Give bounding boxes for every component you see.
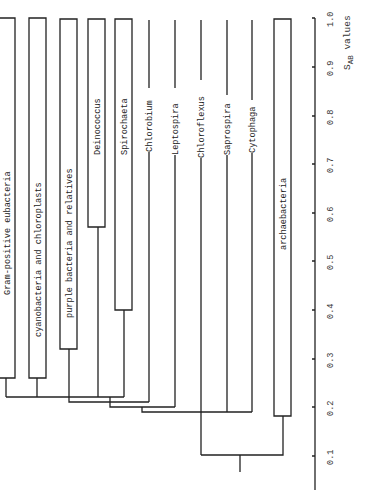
label-spirochaeta: Spirochaeta <box>120 98 130 155</box>
label-chlorobium: Chlorobium <box>145 100 155 152</box>
tick-0.4: 0.4 <box>326 304 336 319</box>
tick-1.0: 1.0 <box>326 12 336 27</box>
label-cytophaga: Cytophaga <box>248 107 258 153</box>
tick-0.7: 0.7 <box>326 158 336 173</box>
tick-0.6: 0.6 <box>326 207 336 222</box>
spirochaeta-box <box>115 19 132 310</box>
axis-title: SAB values <box>342 15 355 70</box>
label-chloroflexus: Chloroflexus <box>197 96 207 158</box>
tick-0.9: 0.9 <box>326 61 336 76</box>
tick-0.3: 0.3 <box>326 353 336 368</box>
label-cyanobacteria: cyanobacteria and chloroplasts <box>34 182 44 337</box>
label-gram-positive: Gram-positive eubacteria <box>3 171 13 295</box>
label-leptospira: Leptospira <box>171 103 181 155</box>
label-purple-bacteria: purple bacteria and relatives <box>65 168 75 318</box>
tick-0.5: 0.5 <box>326 255 336 270</box>
label-deinococcus: Deinococcus <box>93 98 103 155</box>
tick-0.1: 0.1 <box>326 450 336 465</box>
dendrogram: Gram-positive eubacteria cyanobacteria a… <box>0 0 386 499</box>
label-archaebacteria: archaebacteria <box>279 178 289 250</box>
label-saprospira: Saprospira <box>223 103 233 155</box>
tick-0.8: 0.8 <box>326 110 336 125</box>
tick-0.2: 0.2 <box>326 401 336 416</box>
